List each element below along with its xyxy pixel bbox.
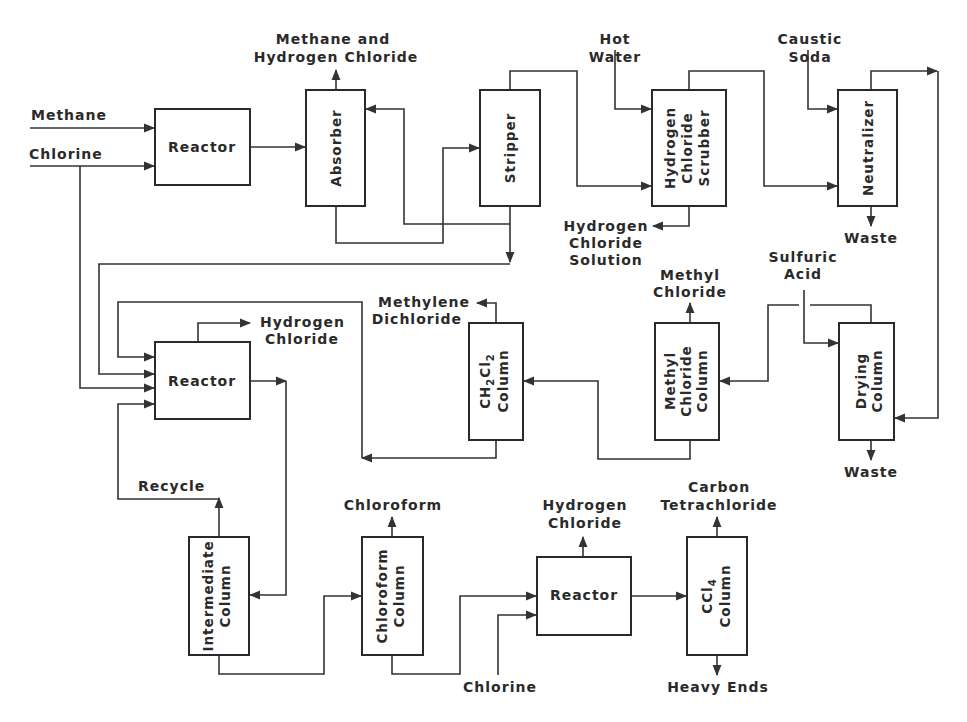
- chlorine-to-reactor3-line: [498, 615, 536, 675]
- unit-reactor-2: Reactor: [155, 342, 250, 419]
- methyl-chloride-product-label-line-1: Methyl: [660, 267, 720, 283]
- methyl-chloride-product-label-line-2: Chloride: [653, 284, 727, 300]
- hcl-solution-label-line-2: Chloride: [569, 235, 643, 251]
- unit-ccl4-column: CCl4 Column: [687, 537, 747, 655]
- chlorine-label: Chlorine: [29, 146, 103, 162]
- neutralizer-label: Neutralizer: [860, 100, 876, 196]
- unit-hcl-scrubber: Hydrogen Chloride Scrubber: [652, 90, 726, 206]
- heavy-ends-label: Heavy Ends: [667, 679, 769, 695]
- reactor3-hcl-label-line-1: Hydrogen: [543, 497, 628, 513]
- methylene-dichloride-label-line-1: Methylene: [378, 294, 470, 310]
- hot-water-label-line-2: Water: [589, 49, 641, 65]
- drying-label-line-1: Drying: [853, 353, 869, 410]
- caustic-soda-label-line-1: Caustic: [778, 31, 843, 47]
- hcl-solution-label-line-3: Solution: [569, 252, 643, 268]
- ccl4-label-line-2: Column: [717, 564, 733, 627]
- hcl-solution-label-line-1: Hydrogen: [564, 218, 649, 234]
- unit-reactor-1: Reactor: [155, 109, 250, 185]
- reactor2-hcl-label-line-1: Hydrogen: [260, 314, 345, 330]
- scrubber-label-line-3: Scrubber: [696, 109, 712, 186]
- absorber-label: Absorber: [328, 109, 344, 187]
- stripper-label: Stripper: [502, 113, 518, 184]
- reactor2-to-intermediate-line: [250, 381, 286, 595]
- process-flow-diagram: Reactor Absorber Stripper Hydrogen Chlor…: [0, 0, 967, 722]
- chloroform-label-line-1: Chloroform: [374, 548, 390, 643]
- sulfuric-acid-line: [804, 290, 838, 343]
- intermediate-label-line-2: Column: [217, 564, 233, 627]
- hcl-solution-line: [653, 206, 689, 226]
- reactor3-hcl-label-line-2: Chloride: [548, 515, 622, 531]
- neutralizer-overhead-line: [871, 71, 937, 90]
- methyl-chloride-label-line-1: Methyl: [662, 352, 678, 410]
- drying-waste-label: Waste: [844, 464, 898, 480]
- methyl-chloride-label-line-2: Chloride: [678, 345, 694, 417]
- methane-label: Methane: [31, 107, 107, 123]
- unit-neutralizer: Neutralizer: [838, 90, 897, 206]
- unit-absorber: Absorber: [306, 90, 365, 206]
- sulfuric-acid-label-line-2: Acid: [784, 266, 822, 282]
- absorber-vent-label-line-2: Hydrogen Chloride: [254, 49, 419, 65]
- recycle-label: Recycle: [138, 478, 205, 494]
- unit-chloroform-column: Chloroform Column: [362, 537, 423, 655]
- unit-ch2cl2-column: CH2Cl2 Column: [469, 323, 523, 440]
- intermediate-label-line-1: Intermediate: [200, 540, 216, 651]
- neutralizer-to-drying-line: [895, 71, 938, 418]
- chlorine-reactor3-label: Chlorine: [463, 679, 537, 695]
- caustic-soda-label-line-2: Soda: [788, 49, 831, 65]
- methylene-dichloride-label-line-2: Dichloride: [372, 311, 462, 327]
- carbon-tetrachloride-label-line-2: Tetrachloride: [660, 497, 777, 513]
- reactor2-hcl-line: [198, 323, 250, 342]
- chloroform-label-line-2: Column: [391, 564, 407, 627]
- drying-label-line-2: Column: [869, 349, 885, 412]
- neutralizer-waste-label: Waste: [844, 230, 898, 246]
- methylene-dichloride-line: [477, 303, 496, 323]
- ch2cl2-label-line-2: Column: [495, 349, 511, 412]
- reactor2-hcl-label-line-2: Chloride: [265, 331, 339, 347]
- drying-overhead-line-a: [810, 305, 871, 323]
- reactor-2-label: Reactor: [168, 373, 236, 389]
- drying-to-methyl-chloride-line: [720, 305, 799, 381]
- ch2cl2-bottom-line: [362, 440, 496, 458]
- unit-methyl-chloride-column: Methyl Chloride Column: [655, 323, 719, 440]
- carbon-tetrachloride-label-line-1: Carbon: [688, 479, 750, 495]
- reactor-3-label: Reactor: [550, 587, 618, 603]
- absorber-vent-label-line-1: Methane and: [276, 31, 390, 47]
- methyl-chloride-label-line-3: Column: [694, 349, 710, 412]
- sulfuric-acid-label-line-1: Sulfuric: [769, 249, 838, 265]
- unit-reactor-3: Reactor: [537, 557, 631, 635]
- unit-stripper: Stripper: [480, 90, 540, 206]
- chlorine-to-reactor2-line: [80, 166, 154, 388]
- reactor-1-label: Reactor: [168, 139, 236, 155]
- scrubber-label-line-2: Chloride: [679, 112, 695, 184]
- unit-drying-column: Drying Column: [839, 323, 894, 440]
- hot-water-label-line-1: Hot: [599, 31, 630, 47]
- scrubber-label-line-1: Hydrogen: [662, 107, 678, 189]
- unit-intermediate-column: Intermediate Column: [189, 537, 249, 655]
- chloroform-product-label: Chloroform: [344, 497, 442, 513]
